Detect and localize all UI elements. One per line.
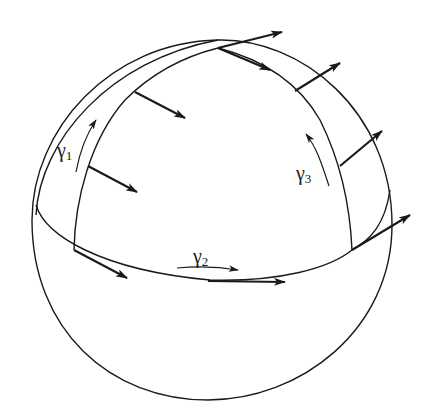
- meridian-gamma3: [218, 48, 352, 250]
- label-gamma2-symbol: γ: [193, 245, 202, 267]
- equator-gamma2: [36, 190, 390, 280]
- label-gamma2: γ2: [193, 246, 208, 268]
- label-gamma3: γ3: [296, 163, 311, 185]
- label-gamma3-sub: 3: [305, 171, 312, 186]
- vector-arrow: [88, 166, 137, 192]
- gamma1-direction-arrow: [76, 120, 96, 172]
- vector-arrow: [340, 131, 382, 166]
- label-gamma1-symbol: γ: [57, 139, 66, 161]
- label-gamma1: γ1: [57, 140, 72, 162]
- vector-arrow: [208, 281, 285, 282]
- vector-arrow: [218, 48, 270, 70]
- outer-left-arc: [36, 40, 218, 215]
- label-gamma2-sub: 2: [202, 254, 209, 269]
- meridian-gamma1: [74, 48, 218, 250]
- vector-arrow: [135, 92, 185, 118]
- sphere-outline: [32, 40, 392, 400]
- label-gamma3-symbol: γ: [296, 162, 305, 184]
- label-gamma1-sub: 1: [66, 148, 73, 163]
- sphere-parallel-transport-diagram: [0, 0, 435, 420]
- vector-arrow: [74, 250, 127, 278]
